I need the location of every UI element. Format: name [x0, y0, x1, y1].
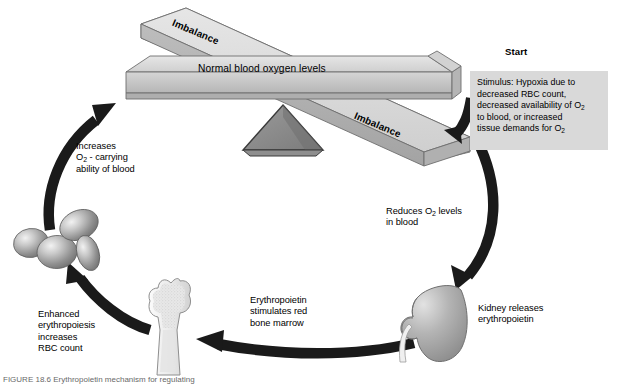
bone-marrow-icon [149, 279, 191, 375]
figure-caption: FIGURE 18.6 Erythropoietin mechanism for… [3, 375, 195, 384]
label-epo-stimulates: Erythropoietinstimulates redbone marrow [250, 295, 307, 329]
label-enhanced-erythropoiesis: EnhancederythropoiesisincreasesRBC count [38, 309, 95, 355]
label-kidney-releases: Kidney releaseserythropoietin [478, 303, 543, 326]
arrow-epo-to-marrow [196, 330, 414, 353]
figure-canvas: Start Stimulus: Hypoxia due todecreased … [0, 0, 620, 390]
stimulus-box: Stimulus: Hypoxia due todecreased RBC co… [470, 71, 608, 150]
beam-label: Normal blood oxygen levels [198, 63, 326, 74]
start-heading: Start [505, 46, 527, 57]
stimulus-text: Stimulus: Hypoxia due todecreased RBC co… [477, 77, 602, 135]
normal-levels-beam [126, 51, 461, 99]
kidney-icon [399, 286, 467, 362]
label-increases-o2-carrying: IncreasesO2 - carryingability of blood [76, 141, 135, 175]
red-blood-cells-icon [12, 204, 104, 274]
label-reduces-o2: Reduces O2 levelsin blood [386, 206, 462, 229]
